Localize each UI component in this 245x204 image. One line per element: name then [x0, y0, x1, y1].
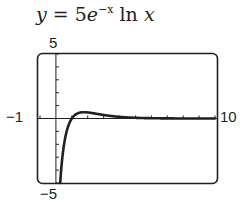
plot-area — [0, 0, 245, 204]
function-curve — [60, 112, 215, 183]
